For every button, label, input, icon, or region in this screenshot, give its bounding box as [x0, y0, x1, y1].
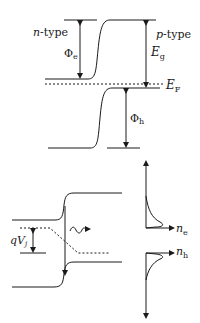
forward-bias-diagram	[12, 193, 122, 287]
electron-density-plot	[146, 163, 172, 228]
equilibrium-labels: n-type p-type Φe Eg EF Φh	[33, 26, 191, 126]
equilibrium-diagram	[45, 20, 163, 148]
hole-density-plot	[146, 253, 172, 316]
phi-h-label: Φh	[130, 112, 144, 126]
n-type-label: n-type	[33, 26, 68, 39]
p-type-label: p-type	[156, 28, 191, 41]
qvj-label: qVj	[10, 234, 28, 248]
fb-valence-band	[12, 262, 122, 287]
electron-distribution-curve	[146, 196, 163, 228]
photon-icon	[70, 227, 88, 233]
band-gap-label: Eg	[150, 45, 165, 61]
fermi-level-label: EF	[165, 78, 181, 94]
nh-label: nh	[176, 245, 188, 260]
hole-distribution-curve	[146, 253, 163, 280]
fb-conduction-band	[12, 193, 122, 220]
ne-label: ne	[176, 222, 188, 237]
band-diagram: n-type p-type Φe Eg EF Φh	[0, 0, 200, 323]
phi-e-label: Φe	[64, 47, 78, 61]
